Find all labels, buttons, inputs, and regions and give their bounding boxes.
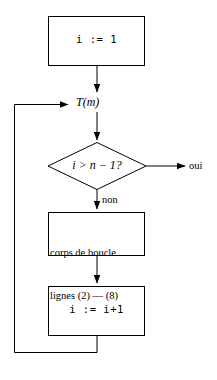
- flowchart-canvas: i := 1 T(m) i > n − 1? corps de boucle l…: [0, 0, 217, 380]
- node-label-body-line1: corps de boucle: [50, 246, 144, 260]
- node-label-increment: i := i+1: [48, 303, 145, 315]
- node-label-loop-entry: T(m): [76, 96, 124, 110]
- edge-label-yes: oui: [189, 160, 202, 171]
- node-label-init: i := 1: [48, 33, 145, 45]
- node-label-body-line2: lignes (2) — (8): [50, 289, 144, 303]
- node-label-condition: i > n − 1?: [52, 159, 142, 173]
- edge-label-no: non: [102, 194, 118, 205]
